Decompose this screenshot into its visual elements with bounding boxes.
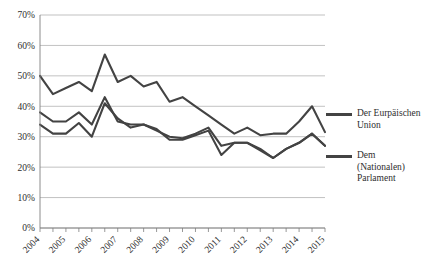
svg-text:2004: 2004 — [21, 234, 42, 255]
chart-container: 70%60%50%40%30%20%10%0% 2004200520062007… — [0, 0, 437, 272]
svg-text:2010: 2010 — [176, 234, 197, 255]
svg-text:10%: 10% — [18, 193, 36, 203]
legend-label-eu: Der Eurpäischen Union — [357, 108, 421, 131]
legend-item-parliament: Dem (Nationalen) Parlament — [326, 150, 437, 185]
x-axis-tickmarks — [40, 228, 325, 232]
svg-text:2005: 2005 — [47, 234, 68, 255]
legend-item-eu: Der Eurpäischen Union — [326, 108, 437, 131]
series-line-0 — [40, 55, 325, 136]
svg-text:2007: 2007 — [99, 234, 120, 255]
svg-text:2015: 2015 — [306, 234, 327, 255]
legend-swatch-icon — [326, 113, 352, 116]
svg-text:30%: 30% — [18, 132, 36, 142]
x-axis-tick-labels: 2004200520062007200820092010201120122013… — [21, 234, 327, 255]
svg-text:2006: 2006 — [73, 234, 94, 255]
y-axis-tick-labels: 70%60%50%40%30%20%10%0% — [18, 10, 36, 233]
svg-text:2009: 2009 — [150, 234, 171, 255]
svg-text:50%: 50% — [18, 71, 36, 81]
svg-text:60%: 60% — [18, 41, 36, 51]
svg-text:70%: 70% — [18, 10, 36, 20]
gridline-group — [40, 15, 325, 228]
svg-text:2011: 2011 — [203, 234, 223, 254]
svg-text:0%: 0% — [22, 223, 35, 233]
chart-title — [80, 0, 300, 5]
svg-text:2012: 2012 — [228, 234, 249, 255]
chart-legend: Der Eurpäischen Union Dem (Nationalen) P… — [326, 108, 437, 204]
svg-text:20%: 20% — [18, 163, 36, 173]
series-line-2 — [40, 103, 325, 158]
legend-label-parliament: Dem (Nationalen) Parlament — [357, 150, 405, 185]
svg-text:2014: 2014 — [280, 234, 301, 255]
svg-text:2008: 2008 — [125, 234, 146, 255]
svg-text:2013: 2013 — [254, 234, 275, 255]
svg-text:40%: 40% — [18, 102, 36, 112]
legend-swatch-icon — [326, 155, 352, 158]
